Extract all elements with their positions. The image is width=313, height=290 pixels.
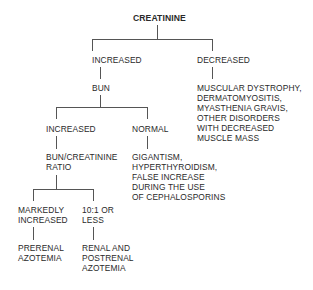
connector-bun-down [100,95,101,107]
node-line: RATIO [46,162,118,172]
node-line: DURING THE USE [132,182,225,192]
node-line: MUSCULAR DYSTROPHY, [197,83,302,93]
connector-ratio-horizontal [33,189,94,190]
node-line: FALSE INCREASE [132,172,225,182]
node-line: 10:1 OR [82,205,114,215]
connector-increased-to-bun [100,67,101,79]
node-line: MYASTHENIA GRAVIS, [197,103,302,113]
node-renal-postrenal-azotemia: RENAL AND POSTRENAL AZOTEMIA [82,243,134,273]
node-line: AZOTEMIA [82,263,134,273]
node-line: AZOTEMIA [18,253,64,263]
node-prerenal-azotemia: PRERENAL AZOTEMIA [18,243,64,263]
node-line: WITH DECREASED [197,123,302,133]
node-bun: BUN [92,83,110,93]
node-line: MUSCLE MASS [197,133,302,143]
node-line: PRERENAL [18,243,64,253]
node-label: INCREASED [92,55,142,65]
node-line: BUN/CREATININE [46,152,118,162]
connector-normal-to-causes [147,136,148,149]
node-line: OF CEPHALOSPORINS [132,192,225,202]
node-decreased-causes: MUSCULAR DYSTROPHY, DERMATOMYOSITIS, MYA… [197,83,302,143]
node-line: INCREASED [18,215,68,225]
node-creatinine-increased: INCREASED [92,55,142,65]
node-line: HYPERTHYROIDISM, [132,162,225,172]
node-bun-increased: INCREASED [46,124,96,134]
node-label: BUN [92,83,110,93]
node-line: POSTRENAL [82,253,134,263]
connector-to-markedly [33,189,34,201]
connector-root-horizontal [92,39,213,40]
node-line: MARKEDLY [18,205,68,215]
connector-decreased-to-causes [212,67,213,79]
connector-root-down [157,25,158,39]
connector-to-bun-increased [56,107,57,119]
connector-to-bun-normal [147,107,148,119]
node-line: OTHER DISORDERS [197,113,302,123]
connector-10-1-to-renal [93,227,94,240]
connector-bun-horizontal [56,107,148,108]
node-label: DECREASED [197,55,250,65]
root-node-creatinine: CREATININE [133,13,186,23]
node-ratio-10-1-or-less: 10:1 OR LESS [82,205,114,225]
connector-bun-increased-to-ratio [56,136,57,149]
node-label: INCREASED [46,124,96,134]
node-normal-causes: GIGANTISM, HYPERTHYROIDISM, FALSE INCREA… [132,152,225,202]
node-creatinine-decreased: DECREASED [197,55,250,65]
connector-to-increased [92,39,93,51]
node-line: DERMATOMYOSITIS, [197,93,302,103]
node-line: LESS [82,215,114,225]
connector-markedly-to-prerenal [33,227,34,240]
node-ratio-markedly-increased: MARKEDLY INCREASED [18,205,68,225]
node-label: CREATININE [133,13,186,23]
node-line: RENAL AND [82,243,134,253]
node-bun-normal: NORMAL [132,124,168,134]
connector-ratio-down [56,175,57,189]
node-label: NORMAL [132,124,168,134]
connector-to-10-1 [93,189,94,201]
connector-to-decreased [212,39,213,51]
node-line: GIGANTISM, [132,152,225,162]
node-bun-creatinine-ratio: BUN/CREATININE RATIO [46,152,118,172]
